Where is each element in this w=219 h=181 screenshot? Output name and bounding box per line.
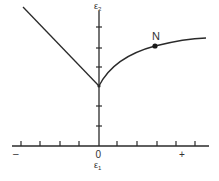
point-n-label: N [152,30,160,42]
origin-label: 0 [96,149,102,160]
right-concave-branch [99,38,206,86]
diagram-canvas: N ε2 0 ε1 – + [0,0,219,181]
left-linear-branch [23,7,99,86]
negative-direction-label: – [13,148,19,159]
y-axis-label: ε2 [94,1,102,12]
x-axis-ticks [21,141,195,146]
vertex-point [97,84,100,87]
point-n-marker [152,43,157,48]
positive-direction-label: + [179,149,185,160]
x-axis-label: ε1 [94,160,102,171]
